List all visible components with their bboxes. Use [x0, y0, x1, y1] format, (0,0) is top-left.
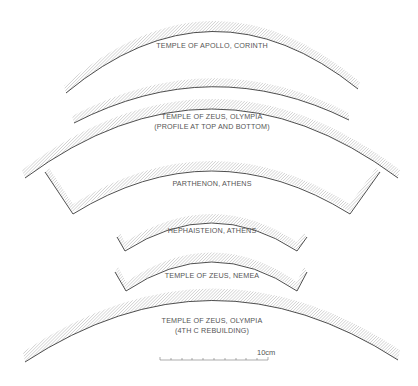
label-apollo-corinth: TEMPLE OF APOLLO, CORINTH: [156, 41, 268, 51]
label-zeus-olympia-line1: TEMPLE OF ZEUS, OLYMPIA: [162, 112, 263, 122]
label-zeus-olympia-4th-line1: TEMPLE OF ZEUS, OLYMPIA: [162, 316, 263, 326]
label-zeus-nemea: TEMPLE OF ZEUS, NEMEA: [165, 271, 260, 281]
scale-bar: [160, 357, 268, 360]
scale-bar-label: 10cm: [257, 348, 275, 357]
label-zeus-olympia-4th-line2: (4TH C REBUILDING): [175, 326, 249, 336]
label-parthenon: PARTHENON, ATHENS: [172, 179, 251, 189]
label-zeus-olympia-line2: (PROFILE AT TOP AND BOTTOM): [154, 122, 269, 132]
label-hephaisteion: HEPHAISTEION, ATHENS: [168, 226, 257, 236]
